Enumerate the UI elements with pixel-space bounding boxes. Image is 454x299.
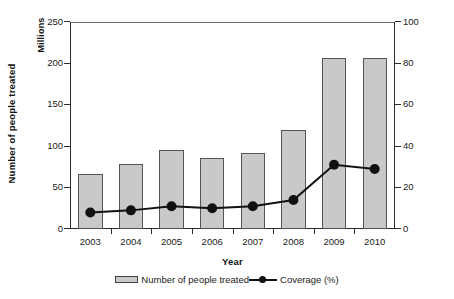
right-tick-label: 100 [403, 16, 437, 27]
left-axis-title: Number of people treated [6, 39, 17, 209]
right-tick-label: 80 [403, 57, 437, 68]
right-tick-mark [395, 63, 401, 64]
x-tick-mark [151, 229, 152, 234]
x-tick-label: 2008 [273, 236, 314, 247]
right-tick-mark [395, 104, 401, 105]
x-tick-mark [273, 229, 274, 234]
x-tick-mark [354, 229, 355, 234]
left-tick-mark [64, 146, 70, 147]
x-axis-title: Year [70, 256, 395, 267]
bar [322, 58, 346, 229]
chart-figure: Millions Number of people treated Covera… [0, 0, 454, 299]
right-tick-label: 60 [403, 98, 437, 109]
x-tick-label: 2006 [192, 236, 233, 247]
left-tick-label: 150 [29, 98, 63, 109]
x-tick-label: 2005 [151, 236, 192, 247]
x-tick-label: 2009 [314, 236, 355, 247]
left-tick-label: 100 [29, 140, 63, 151]
bar [159, 150, 183, 229]
x-tick-mark [192, 229, 193, 234]
bar [281, 130, 305, 229]
bar [241, 153, 265, 229]
x-tick-mark [233, 229, 234, 234]
right-tick-label: 20 [403, 181, 437, 192]
right-tick-label: 0 [403, 223, 437, 234]
x-tick-label: 2004 [111, 236, 152, 247]
x-tick-label: 2003 [70, 236, 111, 247]
right-tick-mark [395, 146, 401, 147]
legend-label-line: Coverage (%) [280, 274, 339, 285]
left-tick-mark [64, 187, 70, 188]
bar [363, 58, 387, 229]
left-tick-mark [64, 63, 70, 64]
bar-swatch-icon [115, 276, 138, 283]
left-tick-mark [64, 21, 70, 22]
x-tick-mark [111, 229, 112, 234]
right-tick-mark [395, 187, 401, 188]
legend-label-bars: Number of people treated [141, 274, 249, 285]
bar [200, 158, 224, 229]
left-tick-label: 250 [29, 16, 63, 27]
right-tick-label: 40 [403, 140, 437, 151]
x-tick-label: 2010 [354, 236, 395, 247]
bar [119, 164, 143, 229]
left-tick-label: 50 [29, 181, 63, 192]
right-tick-mark [395, 21, 401, 22]
line-marker-swatch-icon [249, 275, 277, 284]
left-tick-mark [64, 104, 70, 105]
left-tick-label: 200 [29, 57, 63, 68]
left-tick-mark [64, 228, 70, 229]
chart-legend: Number of people treated Coverage (%) [0, 274, 454, 285]
legend-entry-line: Coverage (%) [249, 274, 339, 285]
right-tick-mark [395, 228, 401, 229]
x-tick-label: 2007 [233, 236, 274, 247]
left-tick-label: 0 [29, 223, 63, 234]
bar [78, 174, 102, 229]
legend-entry-bars: Number of people treated [115, 274, 249, 285]
x-tick-mark [314, 229, 315, 234]
